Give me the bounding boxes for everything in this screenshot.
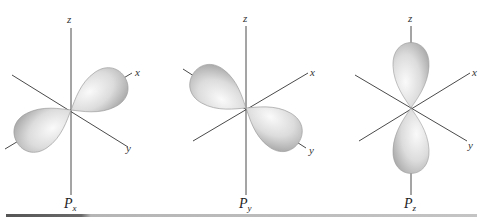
panel-px: z x y Px xyxy=(5,13,140,213)
panel-pz: z x y Pz xyxy=(355,12,477,213)
axis-label-z: z xyxy=(66,13,72,25)
p-orbitals-figure: z x y Px z x y Py z x y Pz xyxy=(0,0,485,223)
axis-label-y: y xyxy=(467,139,473,151)
title-subscript: z xyxy=(412,203,417,213)
title-main: P xyxy=(403,196,413,211)
axis-label-x: x xyxy=(309,66,315,78)
orbital-lobe-positive xyxy=(61,60,136,127)
axis-label-z: z xyxy=(242,12,248,24)
orbital-lobe-negative xyxy=(393,108,429,174)
bottom-rule-divider xyxy=(6,214,477,217)
title-subscript: y xyxy=(247,203,252,213)
orbital-lobe-positive xyxy=(393,42,429,108)
orbital-title-py: Py xyxy=(238,196,252,213)
title-main: P xyxy=(238,196,248,211)
axis-label-y: y xyxy=(308,144,314,156)
orbital-title-px: Px xyxy=(63,196,77,213)
orbital-title-pz: Pz xyxy=(403,196,417,213)
axis-label-y: y xyxy=(125,142,131,154)
orbital-lobe-negative xyxy=(7,93,82,160)
title-main: P xyxy=(63,196,73,211)
axis-label-x: x xyxy=(134,66,140,78)
axis-label-x: x xyxy=(471,66,477,78)
title-subscript: x xyxy=(72,203,77,213)
panel-py: z x y Py xyxy=(182,12,315,213)
axis-label-z: z xyxy=(407,12,413,24)
